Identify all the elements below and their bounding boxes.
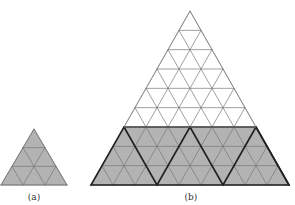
triangle-diagram — [0, 0, 295, 205]
caption-a: (a) — [28, 192, 40, 202]
shaded-region-b — [91, 127, 289, 185]
caption-b: (b) — [185, 192, 198, 202]
shaded-region-a — [1, 129, 67, 185]
